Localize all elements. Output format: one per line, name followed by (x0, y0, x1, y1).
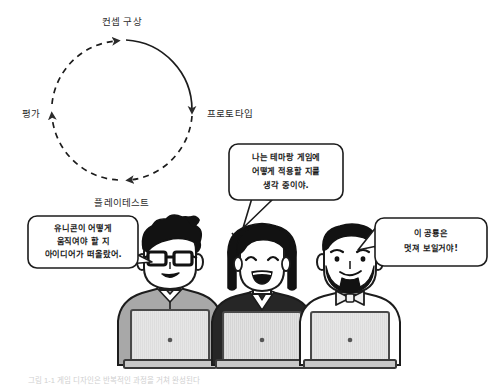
cycle-arc-concept-to-prototype (126, 40, 192, 110)
person-right-eye-left (335, 256, 340, 262)
person-center-ear-left (234, 257, 242, 271)
cycle-arc-prototype-to-playtest (130, 116, 192, 180)
laptop-person-left[interactable] (124, 310, 216, 368)
speech-bubble-left-line-2: 움직여야 할 지 (57, 236, 110, 246)
cycle-label-prototype: 프로토타입 (207, 108, 253, 119)
cycle-arc-evaluation-to-concept (52, 41, 116, 104)
illustration-scene: 컨셉 구상 프로토타입 플레이테스트 평가 (0, 0, 496, 385)
screenshot-canvas: 컨셉 구상 프로토타입 플레이테스트 평가 (0, 0, 496, 385)
speech-bubble-right-line-2: 멋져 보일거야! (404, 243, 458, 253)
speech-bubble-left-line-1: 유니콘이 어떻게 (54, 223, 112, 233)
speech-bubble-left: 유니콘이 어떻게 움직여야 할 지 아이디어가 떠올랐어. (28, 216, 152, 268)
laptop-person-right[interactable] (304, 312, 396, 368)
speech-bubble-center: 나는 테마랑 게임에 어떻게 적용할 지를 생각 중이야. (229, 144, 343, 228)
cycle-label-evaluation: 평가 (22, 108, 40, 119)
speech-bubble-right-line-1: 이 공룡은 (414, 228, 448, 238)
cycle-label-concept: 컨셉 구상 (102, 16, 142, 27)
figure-caption: 그림 1-1 게임 디자인은 반복적인 과정을 거쳐 완성된다 (28, 375, 200, 385)
character-person-center (212, 224, 312, 369)
cycle-diagram: 컨셉 구상 프로토타입 플레이테스트 평가 (22, 16, 253, 208)
speech-bubble-left-line-3: 아이디어가 떠올랐어. (45, 249, 122, 259)
speech-bubble-right: 이 공룡은 멋져 보일거야! (358, 218, 487, 266)
speech-bubble-center-line-2: 어떻게 적용할 지를 (252, 166, 321, 176)
speech-bubble-right-body (375, 218, 487, 266)
person-right-eye-right (361, 256, 366, 262)
laptop-person-center[interactable] (216, 312, 308, 368)
speech-bubble-center-line-1: 나는 테마랑 게임에 (252, 152, 321, 162)
person-center-ear-right (282, 257, 290, 271)
cycle-label-playtest: 플레이테스트 (94, 197, 149, 208)
cycle-arc-playtest-to-evaluation (52, 116, 118, 180)
speech-bubble-center-line-3: 생각 중이야. (263, 180, 308, 190)
